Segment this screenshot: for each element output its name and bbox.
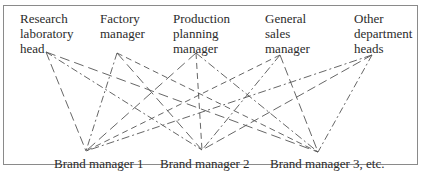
label-line: Research: [20, 11, 73, 26]
label-line: department: [354, 26, 412, 41]
label-line: Factory: [100, 11, 145, 26]
node-factory-manager: Factory manager: [100, 11, 145, 41]
label-line: Production: [173, 11, 230, 26]
connection-research-brand1: [46, 52, 86, 151]
node-brand-manager-3: Brand manager 3, etc.: [270, 156, 384, 171]
connection-other-brand3: [318, 55, 372, 152]
label-line: manager: [265, 41, 310, 56]
label-line: head: [20, 41, 73, 56]
label-line: planning: [173, 26, 230, 41]
node-brand-manager-2: Brand manager 2: [160, 156, 250, 171]
connection-production-brand1: [86, 53, 196, 151]
label-line: laboratory: [20, 26, 73, 41]
connection-sales-brand1: [86, 55, 280, 151]
connection-production-brand2: [196, 53, 202, 150]
label-line: heads: [354, 41, 412, 56]
node-other-department-heads: Other department heads: [354, 11, 412, 56]
label-line: General: [265, 11, 310, 26]
connection-factory-brand1: [86, 53, 117, 151]
label-line: manager: [173, 41, 230, 56]
connection-factory-brand2: [117, 53, 202, 150]
connection-production-brand3: [196, 53, 318, 152]
node-research-laboratory-head: Research laboratory head: [20, 11, 73, 56]
label-line: manager: [100, 26, 145, 41]
label-line: sales: [265, 26, 310, 41]
connection-other-brand2: [202, 55, 372, 150]
node-general-sales-manager: General sales manager: [265, 11, 310, 56]
label-line: Other: [354, 11, 412, 26]
node-production-planning-manager: Production planning manager: [173, 11, 230, 56]
node-brand-manager-1: Brand manager 1: [54, 156, 144, 171]
connection-other-brand1: [86, 55, 372, 151]
connection-sales-brand2: [202, 55, 280, 150]
